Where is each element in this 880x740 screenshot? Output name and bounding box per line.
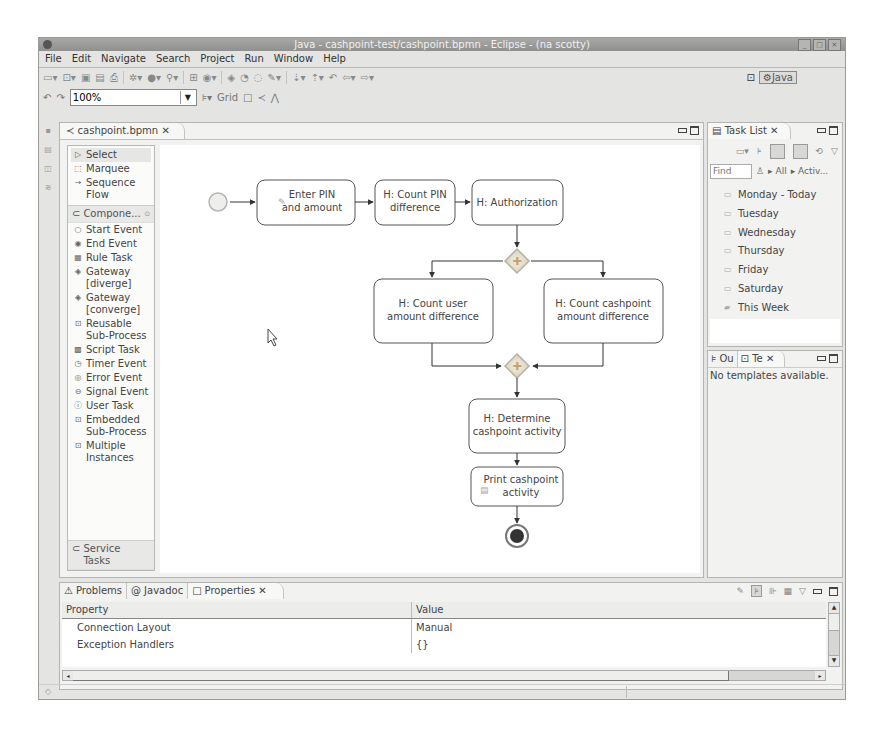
minimize-view-icon[interactable] xyxy=(678,128,687,133)
open-icon[interactable]: ⊡▾ xyxy=(62,72,75,83)
frame-icon[interactable]: □ xyxy=(243,92,252,103)
forward-icon[interactable]: ⇨▾ xyxy=(361,72,374,83)
close-button[interactable]: ✕ xyxy=(828,39,841,51)
vertical-scrollbar[interactable]: ▲ ▼ xyxy=(828,602,840,667)
palette-start-event[interactable]: ○Start Event xyxy=(68,223,154,237)
new-package-icon[interactable]: ⊞ xyxy=(189,72,197,83)
focus-icon[interactable] xyxy=(793,144,808,159)
task-determine-cashpoint-activity[interactable]: H: Determine cashpoint activity xyxy=(469,399,565,453)
clear-icon[interactable]: ♙ xyxy=(756,166,764,176)
palette-signal-event[interactable]: ⊖Signal Event xyxy=(68,385,154,399)
palette-gateway-diverge[interactable]: ◈Gateway [diverge] xyxy=(68,265,154,291)
sync-icon[interactable]: ⟲ xyxy=(816,146,824,156)
save-all-icon[interactable]: ▤ xyxy=(95,72,104,83)
tab-cashpoint-bpmn[interactable]: ≺ cashpoint.bpmn ✕ xyxy=(60,123,185,139)
diagram-canvas[interactable]: ✎ Enter PIN and amount H: Count PIN diff… xyxy=(160,145,700,573)
scroll-down-icon[interactable]: ▼ xyxy=(829,655,839,666)
task-list-item[interactable]: ▭Wednesday xyxy=(710,224,840,243)
scroll-left-icon[interactable]: ◂ xyxy=(63,671,73,680)
filter-all-link[interactable]: ▸ All xyxy=(768,166,787,176)
start-event[interactable] xyxy=(209,193,227,211)
advanced-icon[interactable]: ⊪ xyxy=(769,586,777,596)
new-class-icon[interactable]: ◉▾ xyxy=(203,72,217,83)
save-icon[interactable]: ▣ xyxy=(81,72,90,83)
view-menu-icon[interactable]: ▽ xyxy=(831,146,838,156)
gateway-converge[interactable]: ✚ xyxy=(505,354,529,378)
annotation-icon[interactable]: ✎▾ xyxy=(268,72,281,83)
pin-icon[interactable]: ✎ xyxy=(736,586,744,596)
maximize-view-icon[interactable] xyxy=(829,126,838,135)
prev-annotation-icon[interactable]: ⇡▾ xyxy=(310,72,323,83)
palette-user-task[interactable]: ⓘUser Task xyxy=(68,399,154,413)
palette-error-event[interactable]: ◎Error Event xyxy=(68,371,154,385)
maximize-button[interactable]: □ xyxy=(813,39,826,51)
close-tab-icon[interactable]: ✕ xyxy=(770,125,778,136)
package-explorer-icon[interactable]: ▤ xyxy=(44,145,52,154)
minimize-view-icon[interactable] xyxy=(817,356,826,361)
palette-select[interactable]: ▷ Select xyxy=(71,148,151,162)
tab-templates[interactable]: ⊡ Te ✕ xyxy=(738,351,786,367)
task-count-cashpoint-amount-difference[interactable]: H: Count cashpoint amount difference xyxy=(544,279,663,343)
scheduled-icon[interactable] xyxy=(770,144,785,159)
task-list-item[interactable]: ▭Thursday xyxy=(710,242,840,261)
task-list-item[interactable]: ▭Friday xyxy=(710,261,840,280)
palette-sequence-flow[interactable]: → Sequence Flow xyxy=(68,176,154,202)
palette-gateway-converge[interactable]: ◈Gateway [converge] xyxy=(68,291,154,317)
gateway-diverge[interactable]: ✚ xyxy=(505,249,529,273)
scroll-up-icon[interactable]: ▲ xyxy=(829,603,839,614)
horizontal-scrollbar[interactable]: ◂ ▸ xyxy=(62,670,826,681)
column-header-value[interactable]: Value xyxy=(412,602,826,618)
last-edit-icon[interactable]: ↶ xyxy=(329,72,337,83)
palette-rule-task[interactable]: ▦Rule Task xyxy=(68,251,154,265)
tab-task-list[interactable]: ▤ Task List ✕ xyxy=(708,123,791,139)
zoom-input[interactable] xyxy=(71,92,180,103)
open-perspective-icon[interactable]: ⊡ xyxy=(747,72,755,83)
external-tools-icon[interactable]: ⚲▾ xyxy=(166,72,178,83)
maximize-view-icon[interactable] xyxy=(690,126,699,135)
close-tab-icon[interactable]: ✕ xyxy=(258,583,266,599)
scroll-thumb[interactable] xyxy=(829,614,839,631)
menu-search[interactable]: Search xyxy=(152,51,194,67)
debug-icon[interactable]: ✲▾ xyxy=(129,72,142,83)
grid-button[interactable]: Grid xyxy=(217,92,238,103)
run-icon[interactable]: ●▾ xyxy=(147,72,161,83)
tab-problems[interactable]: ⚠Problems xyxy=(60,583,127,599)
zoom-combo[interactable]: ▼ xyxy=(70,89,197,106)
palette-timer-event[interactable]: ◷Timer Event xyxy=(68,357,154,371)
table-row[interactable]: Exception Handlers {} xyxy=(62,636,826,653)
task-authorization[interactable]: H: Authorization xyxy=(472,180,563,225)
palette-multiple-instances[interactable]: ⊡Multiple Instances xyxy=(68,439,154,465)
menu-help[interactable]: Help xyxy=(319,51,350,67)
menu-navigate[interactable]: Navigate xyxy=(97,51,150,67)
close-tab-icon[interactable]: ✕ xyxy=(161,125,169,136)
hierarchy-icon[interactable]: ◫ xyxy=(44,164,52,173)
open-type-icon[interactable]: ◈ xyxy=(227,72,235,83)
open-task-icon[interactable]: ◔ xyxy=(240,72,249,83)
palette-embedded-subprocess[interactable]: ⊡Embedded Sub-Process xyxy=(68,413,154,439)
tab-javadoc[interactable]: @Javadoc xyxy=(127,583,188,599)
categorized-icon[interactable]: ⊧ xyxy=(757,146,762,156)
navigator-icon[interactable]: ≋ xyxy=(45,183,52,192)
maximize-view-icon[interactable] xyxy=(829,354,838,363)
end-event[interactable] xyxy=(506,525,528,547)
view-menu-icon[interactable]: ▽ xyxy=(799,586,806,596)
task-count-pin-difference[interactable]: H: Count PIN difference xyxy=(375,180,455,225)
task-list-item[interactable]: ▭Saturday xyxy=(710,280,840,299)
tab-outline[interactable]: ⊧ Ou xyxy=(708,351,738,367)
undo-icon[interactable]: ↶ xyxy=(43,92,51,103)
share-icon[interactable]: ≺ xyxy=(257,92,265,103)
print-icon[interactable]: ⎙ xyxy=(110,72,118,84)
components-drawer[interactable]: ⊂ Compone... ⊙ xyxy=(68,205,154,223)
menu-run[interactable]: Run xyxy=(241,51,268,67)
palette-marquee[interactable]: ⬚ Marquee xyxy=(68,162,154,176)
task-list-item[interactable]: ▭Tuesday xyxy=(710,205,840,224)
tab-properties[interactable]: □Properties✕ xyxy=(188,583,283,599)
align-icon[interactable]: ⊧▾ xyxy=(202,92,212,103)
palette-script-task[interactable]: ▩Script Task xyxy=(68,343,154,357)
close-tab-icon[interactable]: ✕ xyxy=(763,353,775,364)
chevron-down-icon[interactable]: ▼ xyxy=(180,91,195,104)
pin-icon[interactable]: ⊙ xyxy=(144,208,150,220)
task-count-user-amount-difference[interactable]: H: Count user amount difference xyxy=(374,279,493,343)
service-tasks-drawer[interactable]: ⊂ Service Tasks xyxy=(68,540,154,570)
scroll-thumb[interactable] xyxy=(73,671,729,681)
